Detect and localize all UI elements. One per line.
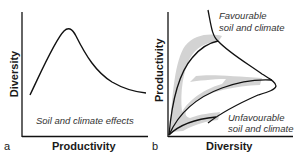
panel-a-y-axis-label: Diversity <box>8 46 20 102</box>
panel-b-unfavourable-line2: soil and climate <box>228 123 293 134</box>
panel-a-hump-curve <box>30 29 146 95</box>
panel-b-y-axis-label: Productivity <box>153 46 165 102</box>
panel-b-unfavourable-line1: Unfavourable <box>228 112 285 123</box>
panel-b-x-axis-label: Diversity <box>206 140 252 152</box>
panel-b-letter: b <box>152 140 158 152</box>
panel-b-favourable-line2: soil and climate <box>219 22 284 33</box>
panel-a-x-axis-label: Productivity <box>52 140 116 152</box>
panel-a-letter: a <box>4 140 10 152</box>
panel-a-annotation: Soil and climate effects <box>36 115 134 126</box>
panel-b-favourable-line1: Favourable <box>219 10 267 21</box>
